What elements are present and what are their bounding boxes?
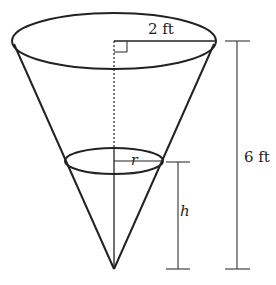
cone-right-side [114,44,214,269]
total-height-label: 6 ft [244,148,270,166]
cone-diagram: 2 ft 6 ft r h [0,0,276,285]
top-radius-label: 2 ft [148,20,174,38]
right-angle-marker [114,41,127,52]
cone-left-side [14,44,114,269]
water-height-label: h [180,202,190,220]
water-radius-label: r [131,152,139,168]
